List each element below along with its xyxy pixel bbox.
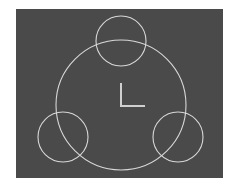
drawing-canvas[interactable] xyxy=(0,0,236,185)
small-circle-top[interactable] xyxy=(96,16,146,66)
small-circle-bottom-left[interactable] xyxy=(38,112,88,162)
ucs-axis-icon xyxy=(121,83,145,106)
